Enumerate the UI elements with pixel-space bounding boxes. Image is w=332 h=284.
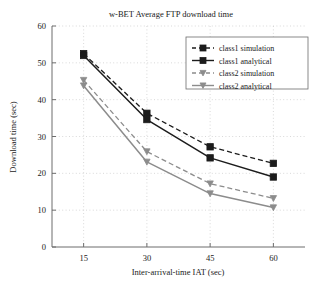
data-point-marker (144, 149, 150, 155)
x-tick-label: 15 (79, 253, 88, 263)
legend-marker (200, 58, 206, 64)
x-tick-label: 60 (269, 253, 278, 263)
data-point-marker (270, 196, 276, 202)
legend: class1 simulationclass1 analyticalclass2… (186, 37, 308, 91)
y-tick-label: 20 (38, 168, 47, 178)
data-point-marker (80, 52, 86, 58)
data-point-marker (270, 174, 276, 180)
x-axis-title: Inter-arrival-time IAT (sec) (132, 267, 225, 277)
chart-container: w-BET Average FTP download time 01020304… (0, 0, 332, 284)
ftp-download-time-chart: w-BET Average FTP download time 01020304… (0, 0, 332, 284)
y-tick-label: 40 (38, 95, 47, 105)
y-tick-label: 10 (38, 205, 47, 215)
y-tick-label: 30 (38, 132, 47, 142)
legend-marker (200, 45, 206, 51)
legend-label: class1 analytical (219, 57, 272, 66)
data-point-marker (270, 160, 276, 166)
series-class2-analytical (80, 83, 276, 211)
series-line (84, 86, 274, 208)
data-point-marker (207, 144, 213, 150)
y-tick-label: 50 (38, 58, 47, 68)
data-point-marker (144, 159, 150, 165)
x-tick-label: 45 (206, 253, 215, 263)
y-tick-label: 0 (42, 242, 46, 252)
y-tick-labels: 0102030405060 (38, 21, 47, 252)
legend-label: class2 analytical (219, 82, 272, 91)
legend-label: class2 simulation (219, 69, 274, 78)
y-tick-label: 60 (38, 21, 47, 31)
x-tick-label: 30 (143, 253, 152, 263)
x-tick-labels: 15304560 (79, 253, 277, 263)
data-point-marker (144, 110, 150, 116)
data-point-marker (144, 116, 150, 122)
y-axis-title: Download time (sec) (8, 101, 18, 172)
chart-title: w-BET Average FTP download time (109, 9, 233, 19)
legend-label: class1 simulation (219, 44, 274, 53)
data-point-marker (207, 155, 213, 161)
